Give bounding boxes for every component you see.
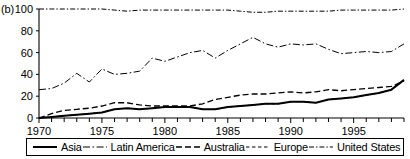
y-tick-label: 20 xyxy=(21,90,33,102)
y-tick-label: 80 xyxy=(21,25,33,37)
legend-label: Europe xyxy=(274,142,308,153)
chart-legend: AsiaLatin AmericaAustraliaEuropeUnited S… xyxy=(26,138,404,156)
x-tick-label: 1985 xyxy=(216,125,240,137)
series-line-united-states xyxy=(39,9,404,12)
line-chart-plot: 020406080100 197019751980198519901995 xyxy=(0,0,410,159)
dash-dot-line-icon xyxy=(82,143,108,151)
legend-entry-asia[interactable]: Asia xyxy=(32,142,82,153)
legend-entry-europe[interactable]: Europe xyxy=(245,142,308,153)
data-series-group xyxy=(39,9,404,118)
series-line-latin-america xyxy=(39,37,404,89)
legend-entry-latin-america[interactable]: Latin America xyxy=(82,142,175,153)
legend-label: Australia xyxy=(204,142,245,153)
y-tick-label: 40 xyxy=(21,68,33,80)
y-tick-label: 100 xyxy=(15,3,33,15)
dash-dot-short-line-icon xyxy=(308,143,334,151)
x-tick-label: 1990 xyxy=(278,125,302,137)
legend-entry-united-states[interactable]: United States xyxy=(308,142,400,153)
x-axis-ticks: 197019751980198519901995 xyxy=(27,118,404,137)
legend-entry-australia[interactable]: Australia xyxy=(175,142,245,153)
x-tick-label: 1980 xyxy=(153,125,177,137)
x-tick-label: 1970 xyxy=(27,125,51,137)
legend-label: Asia xyxy=(61,142,82,153)
solid-line-icon xyxy=(32,143,58,151)
legend-label: United States xyxy=(337,142,400,153)
x-tick-label: 1995 xyxy=(341,125,365,137)
legend-label: Latin America xyxy=(111,142,175,153)
short-dash-line-icon xyxy=(245,143,271,151)
axis-lines xyxy=(39,9,404,118)
y-tick-label: 0 xyxy=(27,112,33,124)
long-dash-line-icon xyxy=(175,143,201,151)
chart-figure: (b) 020406080100 19701975198019851990199… xyxy=(0,0,410,159)
x-tick-label: 1975 xyxy=(90,125,114,137)
y-axis-ticks: 020406080100 xyxy=(15,3,39,124)
y-tick-label: 60 xyxy=(21,47,33,59)
